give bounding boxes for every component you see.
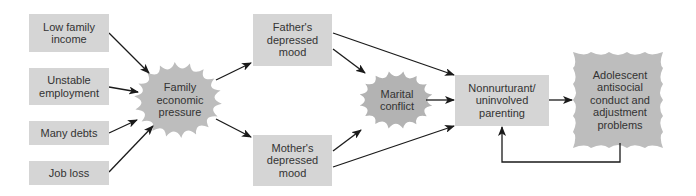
label-marital-conflict: Marital conflict [380,88,414,113]
node-adolescent-outcome: Adolescent antisocial conduct and adjust… [578,60,662,140]
arrow-jobloss-to-pressure [109,126,153,172]
box-mothers-depressed-mood: Mother's depressed mood [253,135,332,186]
box-many-debts: Many debts [29,121,109,145]
arrow-income-to-pressure [109,33,149,73]
label-nonnurturant-parenting: Nonnurturant/ uninvolved parenting [468,82,535,120]
arrow-debts-to-pressure [109,120,137,133]
box-unstable-employment: Unstable employment [29,68,109,105]
arrow-pressure-to-mother [216,119,251,137]
path-diagram: Low family income Unstable employment Ma… [0,0,696,196]
arrow-mother-to-marital [333,130,361,151]
arrow-pressure-to-father [216,63,251,80]
label-adolescent-outcome: Adolescent antisocial conduct and adjust… [590,69,650,132]
arrow-father-to-marital [333,49,365,73]
box-job-loss: Job loss [29,161,109,185]
label-mothers-depressed-mood: Mother's depressed mood [267,142,318,180]
arrow-father-to-parenting [333,33,454,75]
node-marital-conflict: Marital conflict [365,80,429,120]
arrow-mother-to-parenting [333,126,454,167]
label-low-family-income: Low family income [43,21,95,46]
arrow-employment-to-pressure [109,87,138,92]
label-job-loss: Job loss [49,167,89,180]
label-family-economic-pressure: Family economic pressure [156,81,203,119]
label-unstable-employment: Unstable employment [39,74,99,99]
box-nonnurturant-parenting: Nonnurturant/ uninvolved parenting [455,75,549,126]
box-low-family-income: Low family income [29,14,109,52]
label-many-debts: Many debts [41,127,98,140]
box-fathers-depressed-mood: Father's depressed mood [253,14,332,66]
label-fathers-depressed-mood: Father's depressed mood [267,21,318,59]
node-family-economic-pressure: Family economic pressure [140,70,220,130]
